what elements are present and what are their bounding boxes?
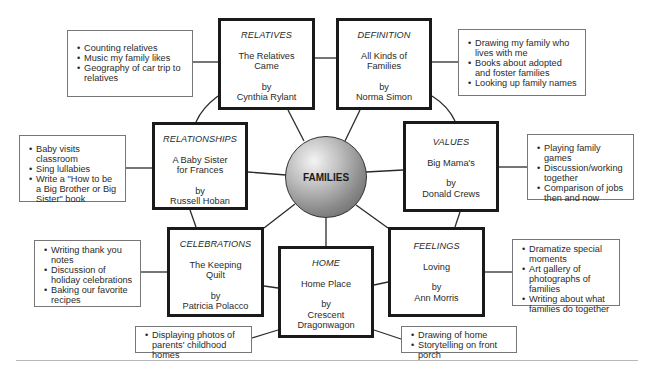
book-author: Crescent Dragonwagon <box>281 310 371 331</box>
book-title: The Relatives Came <box>221 51 312 72</box>
activity-item: Sing lullabies <box>29 164 119 174</box>
book-definition: DEFINITION All Kinds of Families by Norm… <box>336 18 432 110</box>
activity-item: Write a "How to be a Big Brother or Big … <box>29 174 119 204</box>
book-title: All Kinds of Families <box>339 51 429 72</box>
theme-label: DEFINITION <box>339 30 429 41</box>
by-label: by <box>155 186 245 197</box>
book-home: HOME Home Place by Crescent Dragonwagon <box>278 246 374 338</box>
book-author: Ann Morris <box>391 293 482 304</box>
activity-item: Writing thank you notes <box>44 245 134 265</box>
families-hub: FAMILIES <box>285 136 367 218</box>
activities-values: Playing family games Discussion/working … <box>527 134 634 200</box>
book-title: Loving <box>391 262 482 273</box>
book-author: Russell Hoban <box>155 196 245 207</box>
book-author: Norma Simon <box>339 92 429 103</box>
activity-item: Counting relatives <box>77 43 186 53</box>
by-label: by <box>406 178 496 189</box>
by-label: by <box>281 299 371 310</box>
book-relatives: RELATIVES The Relatives Came by Cynthia … <box>218 18 315 110</box>
book-title: The Keeping Quilt <box>170 260 261 281</box>
book-title: A Baby Sister for Frances <box>155 155 245 176</box>
activity-item: Baking our favorite recipes <box>44 285 134 305</box>
bottom-divider <box>16 360 638 361</box>
activity-item: Music my family likes <box>77 53 186 63</box>
activity-item: Drawing of home <box>411 330 510 340</box>
theme-label: FEELINGS <box>391 241 482 252</box>
by-label: by <box>221 82 312 93</box>
activity-item: Comparison of jobs then and now <box>537 183 627 203</box>
theme-label: CELEBRATIONS <box>170 239 261 250</box>
hub-label: FAMILIES <box>303 172 349 183</box>
book-author: Donald Crews <box>406 189 496 200</box>
activity-item: Books about adopted and foster families <box>468 58 579 78</box>
activity-item: Drawing my family who lives with me <box>468 38 579 58</box>
theme-label: HOME <box>281 258 371 269</box>
by-label: by <box>170 291 261 302</box>
activity-item: Baby visits classroom <box>29 144 119 164</box>
by-label: by <box>339 82 429 93</box>
activity-item: Art gallery of photographs of families <box>522 264 613 294</box>
activities-home-right: Drawing of home Storytelling on front po… <box>401 326 517 353</box>
activity-item: Storytelling on front porch <box>411 340 510 360</box>
by-label: by <box>391 282 482 293</box>
activities-relatives: Counting relatives Music my family likes… <box>67 30 193 97</box>
activities-relationships: Baby visits classroom Sing lullabies Wri… <box>19 135 126 202</box>
activities-celebrations: Writing thank you notes Discussion of ho… <box>34 240 141 307</box>
activity-item: Discussion of holiday celebrations <box>44 265 134 285</box>
book-celebrations: CELEBRATIONS The Keeping Quilt by Patric… <box>167 227 264 317</box>
theme-label: RELATIVES <box>221 30 312 41</box>
book-values: VALUES Big Mama's by Donald Crews <box>403 121 499 212</box>
activity-item: Writing about what families do together <box>522 294 613 314</box>
theme-label: VALUES <box>406 137 496 148</box>
activities-home-left: Displaying photos of parents' childhood … <box>135 326 252 353</box>
book-author: Cynthia Rylant <box>221 92 312 103</box>
activity-item: Displaying photos of parents' childhood … <box>145 330 245 360</box>
book-feelings: FEELINGS Loving by Ann Morris <box>388 227 485 317</box>
activity-item: Looking up family names <box>468 78 579 88</box>
activity-item: Discussion/working together <box>537 163 627 183</box>
activity-item: Playing family games <box>537 143 627 163</box>
theme-label: RELATIONSHIPS <box>155 134 245 145</box>
activities-definition: Drawing my family who lives with me Book… <box>458 29 586 96</box>
activity-item: Geography of car trip to relatives <box>77 63 186 83</box>
activity-item: Dramatize special moments <box>522 244 613 264</box>
book-author: Patricia Polacco <box>170 301 261 312</box>
book-title: Big Mama's <box>406 158 496 169</box>
book-title: Home Place <box>281 279 371 290</box>
activities-feelings: Dramatize special moments Art gallery of… <box>512 239 620 306</box>
book-relationships: RELATIONSHIPS A Baby Sister for Frances … <box>152 122 248 210</box>
